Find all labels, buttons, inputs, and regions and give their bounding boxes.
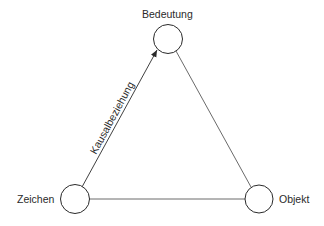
node-zeichen-circle xyxy=(61,185,90,214)
edge-label-kausalbeziehung: Kausalbeziehung xyxy=(87,79,136,156)
edge-bedeutung-objekt xyxy=(176,51,251,187)
label-zeichen: Zeichen xyxy=(17,193,55,205)
label-bedeutung: Bedeutung xyxy=(142,8,193,20)
label-objekt: Objekt xyxy=(279,193,309,205)
semiotic-triangle-diagram: Bedeutung Zeichen Objekt Kausalbeziehung xyxy=(0,0,324,226)
edge-zeichen-bedeutung xyxy=(82,50,157,187)
node-objekt-circle xyxy=(245,185,273,213)
node-bedeutung-circle xyxy=(154,25,183,54)
